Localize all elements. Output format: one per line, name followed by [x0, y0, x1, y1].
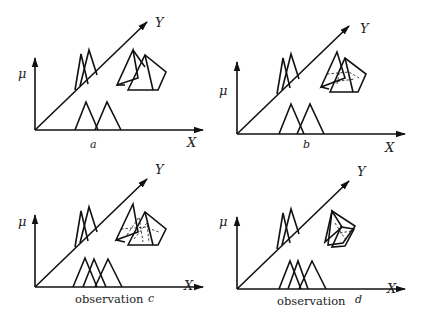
axis-label-mu: μ — [219, 214, 227, 229]
axis-label-mu: μ — [18, 214, 26, 229]
axis-label-x: X — [384, 140, 395, 155]
axis-label-y: Y — [357, 164, 367, 179]
axis-label-y: Y — [155, 15, 165, 30]
observation-label: observation — [75, 292, 144, 306]
panel-caption: d — [355, 293, 362, 306]
panel-d: observation — [237, 181, 405, 308]
axis-label-y: Y — [155, 162, 165, 177]
relation-pyramids — [117, 50, 166, 90]
observation-label: observation — [277, 294, 346, 308]
axis-label-mu: μ — [18, 66, 26, 81]
axis-label-mu: μ — [219, 83, 227, 98]
axis-label-x: X — [386, 281, 397, 296]
panel-caption: a — [90, 138, 97, 151]
relation-pyramids — [116, 204, 166, 245]
panel-caption: b — [303, 138, 310, 151]
axis-label-x: X — [183, 278, 194, 293]
relation-pyramids — [325, 211, 355, 247]
panel-a — [35, 22, 203, 130]
axis-label-y: Y — [360, 21, 370, 36]
panel-b — [237, 26, 405, 134]
fuzzy-relation-figure: observation observation Y X μ a Y X μ b … — [0, 0, 425, 313]
panel-caption: c — [148, 292, 154, 305]
axis-label-x: X — [186, 135, 197, 150]
relation-pyramids — [321, 52, 366, 92]
panel-c: observation — [35, 179, 203, 306]
